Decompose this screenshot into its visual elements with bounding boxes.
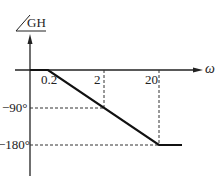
x-tick-20: 20 <box>145 73 158 86</box>
y-axis-arrow-icon <box>28 34 33 44</box>
x-tick-2: 2 <box>94 73 101 86</box>
x-tick-0-2: 0.2 <box>41 73 57 86</box>
x-axis-arrow-icon <box>193 68 203 73</box>
x-axis-label: ω <box>205 62 215 76</box>
y-tick-minus-90: −90° <box>2 101 28 114</box>
bode-phase-diagram: GH ω 0.2 2 20 −90° −180° <box>0 0 218 184</box>
y-tick-minus-180: −180° <box>0 138 30 151</box>
y-axis-label: GH <box>27 16 46 29</box>
